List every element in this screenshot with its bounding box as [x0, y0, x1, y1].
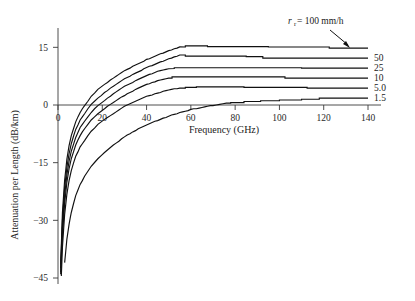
y-tick-label: 15 [39, 43, 49, 53]
x-axis-title: Frequency (GHz) [189, 124, 259, 136]
x-tick-label: 100 [272, 113, 287, 123]
series-label-1.5: 1.5 [374, 93, 386, 103]
y-axis-ticks: 150−15−30−45 [33, 43, 58, 284]
x-tick-label: 40 [142, 113, 152, 123]
annotation-variable: r [288, 16, 292, 26]
series-line-10 [61, 77, 368, 274]
x-tick-label: 0 [56, 113, 61, 123]
plot-axes [58, 28, 381, 284]
y-tick-label: −30 [33, 216, 48, 226]
series-label-25: 25 [374, 63, 384, 73]
series-end-labels: 5025105.01.5 [374, 53, 386, 103]
rain-attenuation-chart: 020406080100120140 150−15−30−45 5025105.… [0, 0, 415, 301]
y-axis-title: Attenuation per Length (dB/km) [9, 110, 21, 240]
series-label-50: 50 [374, 53, 384, 63]
annotation-group: r r = 100 mm/h [288, 16, 350, 48]
x-tick-label: 120 [317, 113, 332, 123]
y-tick-label: 0 [43, 100, 48, 110]
series-label-10: 10 [374, 73, 384, 83]
x-tick-label: 140 [361, 113, 376, 123]
data-series-group [61, 46, 368, 276]
x-tick-label: 80 [230, 113, 240, 123]
x-tick-label: 60 [186, 113, 196, 123]
y-tick-label: −45 [33, 273, 48, 283]
chart-canvas: 020406080100120140 150−15−30−45 5025105.… [0, 0, 415, 301]
annotation-text: = 100 mm/h [297, 16, 344, 26]
y-tick-label: −15 [33, 158, 48, 168]
series-label-5.0: 5.0 [374, 83, 386, 93]
